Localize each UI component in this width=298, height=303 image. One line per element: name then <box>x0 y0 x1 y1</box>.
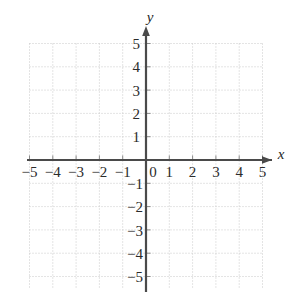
coordinate-plane-svg: x y −5 −4 −3 −2 −1 0 1 2 3 4 5 5 4 3 2 1… <box>0 0 298 303</box>
y-tick-label: 4 <box>133 59 141 75</box>
x-tick-label: −4 <box>45 164 61 180</box>
x-tick-label: −3 <box>68 164 84 180</box>
y-tick-label: 3 <box>133 83 141 99</box>
y-tick-label: −1 <box>127 176 143 192</box>
y-tick-label: −5 <box>127 269 143 285</box>
y-tick-label: 5 <box>133 36 141 52</box>
y-tick-label: −4 <box>127 246 143 262</box>
x-tick-label: 1 <box>166 164 174 180</box>
x-tick-label: −2 <box>91 164 107 180</box>
x-tick-label: 5 <box>259 164 267 180</box>
y-axis-label: y <box>145 9 154 25</box>
y-tick-label: 2 <box>133 106 141 122</box>
x-tick-label: 4 <box>235 164 243 180</box>
origin-label: 0 <box>149 164 157 180</box>
y-tick-label: −2 <box>127 199 143 215</box>
x-tick-label: 3 <box>212 164 220 180</box>
coordinate-plane-figure: x y −5 −4 −3 −2 −1 0 1 2 3 4 5 5 4 3 2 1… <box>0 0 298 303</box>
figure-background <box>0 0 298 303</box>
x-tick-label: 2 <box>189 164 197 180</box>
y-tick-label: −3 <box>127 223 143 239</box>
x-axis-label: x <box>277 146 285 162</box>
x-tick-label: −5 <box>22 164 38 180</box>
y-tick-label: 1 <box>133 129 141 145</box>
